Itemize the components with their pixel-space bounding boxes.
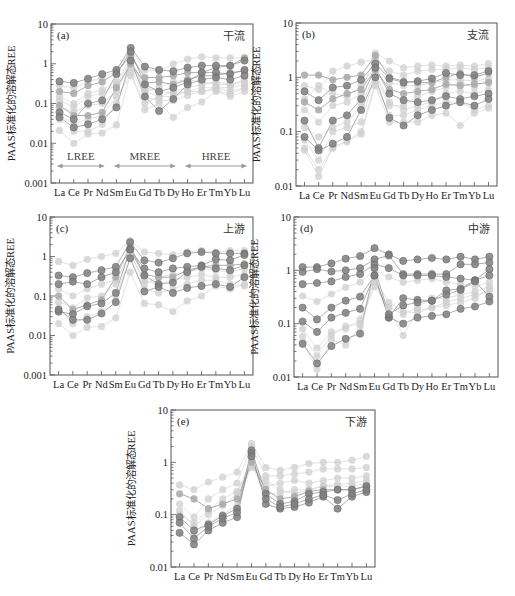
data-point [342, 267, 349, 274]
data-point [70, 116, 77, 123]
y-axis-label: PAAS标准化的溶解态REE [5, 46, 17, 162]
data-point [84, 112, 91, 119]
figure-canvas: 0.0010.010.1110LaCePrNdSmEuGdTbDyHoErTmY… [0, 0, 515, 596]
data-point [342, 335, 349, 342]
x-tick-label-ce: Ce [188, 571, 200, 582]
data-point [313, 344, 320, 351]
data-point [363, 486, 370, 493]
data-point [342, 323, 349, 330]
data-point [84, 75, 91, 82]
data-point [358, 119, 365, 126]
data-point [70, 79, 77, 86]
y-tick-label: 0.01 [150, 562, 168, 573]
series-points [299, 245, 493, 373]
data-point [457, 261, 464, 268]
x-tick-label-ce: Ce [67, 379, 79, 390]
data-point [112, 289, 119, 296]
data-point [112, 269, 119, 276]
data-point [155, 269, 162, 276]
data-point [155, 259, 162, 266]
data-point [385, 311, 392, 318]
data-point [315, 133, 322, 140]
arrow-left-icon [186, 164, 191, 169]
data-point [190, 519, 197, 526]
arrow-left-icon [114, 164, 119, 169]
data-point [234, 488, 241, 495]
data-point [471, 81, 478, 88]
data-point [169, 265, 176, 272]
data-point [457, 305, 464, 312]
data-point [328, 278, 335, 285]
data-point [112, 250, 119, 257]
data-point [457, 82, 464, 89]
data-point [315, 106, 322, 113]
data-point [342, 255, 349, 262]
data-point [315, 157, 322, 164]
data-point [84, 100, 91, 107]
data-point [443, 256, 450, 263]
x-tick-label-la: La [299, 190, 310, 201]
data-point [400, 279, 407, 286]
data-point [291, 464, 298, 471]
y-tick-label: 0.1 [155, 509, 168, 520]
x-tick-label-nd: Nd [341, 190, 355, 201]
data-point [400, 302, 407, 309]
data-point [428, 272, 435, 279]
data-point [248, 453, 255, 460]
data-point [170, 95, 177, 102]
data-point [184, 269, 191, 276]
data-point [234, 480, 241, 487]
data-point [241, 251, 248, 258]
x-tick-label-tm: Tm [453, 381, 468, 392]
data-point [414, 78, 421, 85]
y-tick-label: 1 [163, 457, 168, 468]
data-point [141, 93, 148, 100]
data-point [299, 318, 306, 325]
data-point [84, 294, 91, 301]
data-point [301, 133, 308, 140]
x-tick-label-tb: Tb [153, 187, 165, 198]
data-point [386, 68, 393, 75]
data-point [313, 360, 320, 367]
x-tick-label-ce: Ce [313, 190, 325, 201]
data-point [84, 121, 91, 128]
data-point [442, 110, 449, 117]
x-tick-label-pr: Pr [83, 187, 93, 198]
x-tick-label-la: La [174, 571, 185, 582]
data-point [485, 79, 492, 86]
data-point [428, 254, 435, 261]
data-point [205, 505, 212, 512]
region-lree: LREE [58, 150, 105, 169]
data-point [442, 102, 449, 109]
data-point [457, 72, 464, 79]
x-tick-label-yb: Yb [468, 190, 481, 201]
data-point [301, 147, 308, 154]
data-point [56, 127, 63, 134]
data-point [127, 57, 134, 64]
data-point [320, 459, 327, 466]
data-point [176, 529, 183, 536]
data-point [328, 290, 335, 297]
data-point [198, 88, 205, 95]
data-point [70, 124, 77, 131]
data-point [372, 64, 379, 71]
data-point [141, 100, 148, 107]
data-point [227, 257, 234, 264]
data-point [98, 281, 105, 288]
data-point [205, 478, 212, 485]
data-point [334, 497, 341, 504]
data-point [400, 332, 407, 339]
data-point [471, 288, 478, 295]
data-point [400, 64, 407, 71]
data-point [343, 133, 350, 140]
data-point [334, 465, 341, 472]
x-tick-label-er: Er [441, 381, 451, 392]
data-point [372, 52, 379, 59]
data-point [212, 54, 219, 61]
data-point [190, 486, 197, 493]
panel-title: 中游 [468, 223, 490, 236]
data-point [386, 102, 393, 109]
data-point [84, 303, 91, 310]
data-point [343, 90, 350, 97]
x-tick-label-la: La [53, 379, 64, 390]
